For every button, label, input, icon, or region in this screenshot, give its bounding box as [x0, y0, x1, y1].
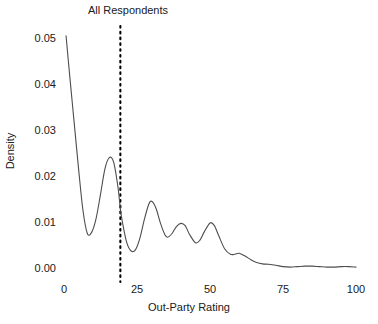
density-curve	[66, 36, 356, 267]
density-plot-figure: All Respondents 0.00 0.01 0.02 0.03 0.04…	[0, 0, 378, 324]
plot-canvas	[0, 0, 378, 324]
